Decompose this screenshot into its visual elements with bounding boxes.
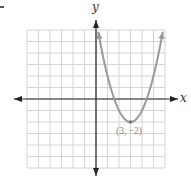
parabola-graph	[0, 0, 191, 179]
vertex-point	[129, 120, 133, 124]
y-axis-label: y	[92, 0, 99, 14]
x-axis-label: x	[180, 91, 187, 105]
vertex-label: (3, −2)	[116, 126, 142, 136]
